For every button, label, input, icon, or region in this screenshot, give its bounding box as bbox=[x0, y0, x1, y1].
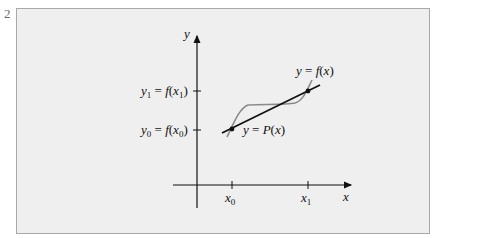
x-axis-label: x bbox=[342, 189, 349, 204]
x0-label: x0 bbox=[224, 190, 236, 207]
y1-label: y1 = f(x1) bbox=[139, 83, 188, 100]
y0-label: y0 = f(x0) bbox=[139, 122, 188, 139]
interpolation-diagram: y x x0 x1 y1 = f(x1) y0 = f(x0) y = f(x)… bbox=[0, 0, 490, 238]
point-p1 bbox=[306, 89, 311, 94]
point-p0 bbox=[230, 127, 235, 132]
y-axis-label: y bbox=[182, 26, 190, 41]
function-label: y = f(x) bbox=[294, 63, 334, 78]
interpolant-label: y = P(x) bbox=[241, 122, 285, 137]
x1-label: x1 bbox=[300, 190, 311, 207]
